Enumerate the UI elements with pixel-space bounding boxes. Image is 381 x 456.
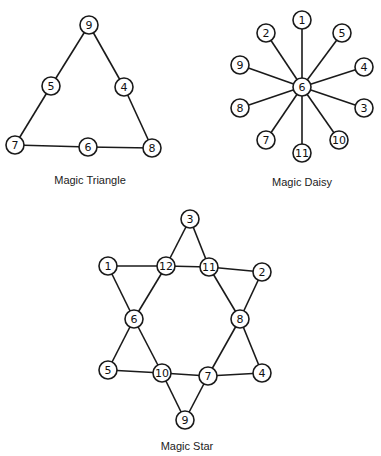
- node-label: 5: [105, 364, 112, 377]
- node-circle: 8: [231, 310, 249, 328]
- edge-line: [302, 33, 342, 87]
- node-circle: 11: [293, 144, 311, 162]
- node-circle: 5: [333, 24, 351, 42]
- node-circle: 3: [181, 210, 199, 228]
- node-label: 8: [149, 142, 156, 155]
- node-label: 4: [121, 81, 128, 94]
- edge-line: [208, 319, 240, 376]
- node-circle: 2: [253, 263, 271, 281]
- node-circle: 7: [6, 136, 24, 154]
- node-circle: 5: [42, 77, 60, 95]
- node-circle: 7: [199, 367, 217, 385]
- node-circle: 6: [79, 138, 97, 156]
- star-caption: Magic Star: [161, 440, 214, 452]
- node-circle: 6: [293, 78, 311, 96]
- node-label: 6: [131, 313, 138, 326]
- node-label: 11: [295, 147, 309, 160]
- daisy-caption: Magic Daisy: [272, 176, 332, 188]
- node-label: 7: [205, 370, 212, 383]
- node-circle: 2: [257, 24, 275, 42]
- node-circle: 6: [125, 310, 143, 328]
- node-label: 8: [237, 102, 244, 115]
- node-label: 6: [85, 141, 92, 154]
- node-circle: 9: [231, 56, 249, 74]
- node-label: 7: [263, 134, 270, 147]
- magic-daisy-diagram: 6125948371011Magic Daisy: [231, 11, 373, 188]
- magic-figures-canvas: 954768Magic Triangle 6125948371011Magic …: [0, 0, 381, 456]
- node-label: 7: [12, 139, 19, 152]
- edge-line: [51, 25, 89, 86]
- node-label: 3: [361, 102, 368, 115]
- node-label: 9: [182, 414, 189, 427]
- magic-star-diagram: 311211268510749Magic Star: [99, 210, 271, 452]
- node-circle: 4: [355, 58, 373, 76]
- node-label: 5: [48, 80, 55, 93]
- node-label: 1: [299, 14, 306, 27]
- node-label: 5: [339, 27, 346, 40]
- node-label: 9: [237, 59, 244, 72]
- magic-triangle-diagram: 954768Magic Triangle: [6, 16, 161, 186]
- node-label: 10: [332, 134, 346, 147]
- node-label: 2: [263, 27, 270, 40]
- node-circle: 10: [330, 131, 348, 149]
- node-label: 3: [187, 213, 194, 226]
- edge-line: [89, 25, 124, 87]
- node-circle: 8: [231, 99, 249, 117]
- node-label: 11: [202, 261, 216, 274]
- node-circle: 11: [200, 258, 218, 276]
- node-label: 12: [159, 260, 173, 273]
- node-circle: 12: [157, 257, 175, 275]
- node-circle: 7: [257, 131, 275, 149]
- edge-line: [240, 65, 302, 87]
- node-circle: 4: [115, 78, 133, 96]
- node-circle: 9: [80, 16, 98, 34]
- node-circle: 1: [293, 11, 311, 29]
- edge-line: [302, 87, 364, 108]
- node-circle: 9: [176, 411, 194, 429]
- node-label: 9: [86, 19, 93, 32]
- node-circle: 5: [99, 361, 117, 379]
- node-label: 4: [361, 61, 368, 74]
- node-circle: 4: [253, 364, 271, 382]
- node-label: 1: [105, 260, 112, 273]
- node-label: 8: [237, 313, 244, 326]
- node-label: 4: [259, 367, 266, 380]
- edge-line: [240, 87, 302, 108]
- node-label: 10: [155, 367, 169, 380]
- node-label: 2: [259, 266, 266, 279]
- triangle-caption: Magic Triangle: [54, 174, 126, 186]
- node-circle: 1: [99, 257, 117, 275]
- node-circle: 8: [143, 139, 161, 157]
- node-circle: 3: [355, 99, 373, 117]
- edge-line: [124, 87, 152, 148]
- node-label: 6: [299, 81, 306, 94]
- edge-line: [15, 145, 88, 147]
- node-circle: 10: [153, 364, 171, 382]
- edge-line: [15, 86, 51, 145]
